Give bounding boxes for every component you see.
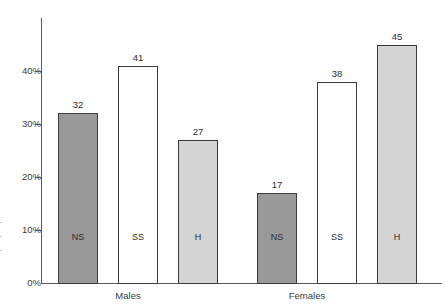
y-tick-mark bbox=[35, 124, 41, 125]
bar-value-label: 17 bbox=[257, 179, 297, 190]
group-label-females: Females bbox=[257, 290, 357, 301]
bar-value-label: 27 bbox=[178, 126, 218, 137]
bar-value-label: 32 bbox=[58, 99, 98, 110]
bar-inner-label: H bbox=[178, 232, 218, 242]
y-tick-0pct: 0% bbox=[0, 278, 41, 288]
bar-inner-label: SS bbox=[118, 232, 158, 242]
bar-value-label: 41 bbox=[118, 52, 158, 63]
y-tick-mark bbox=[35, 71, 41, 72]
scan-artifact bbox=[0, 250, 2, 251]
scan-artifact bbox=[0, 222, 2, 223]
bar-inner-label: SS bbox=[317, 232, 357, 242]
y-tick-label: 0% bbox=[7, 278, 41, 288]
bar-males-ns[interactable] bbox=[58, 113, 98, 284]
y-tick-mark bbox=[35, 177, 41, 178]
bar-inner-label: NS bbox=[58, 232, 98, 242]
bar-chart: 0%10%20%30%40% 32NS41SS27H17NS38SS45H Ma… bbox=[0, 0, 445, 308]
bar-value-label: 45 bbox=[377, 31, 417, 42]
bar-value-label: 38 bbox=[317, 68, 357, 79]
bar-females-h[interactable] bbox=[377, 45, 417, 285]
bar-males-ss[interactable] bbox=[118, 66, 158, 284]
y-tick-mark bbox=[35, 230, 41, 231]
bar-inner-label: H bbox=[377, 232, 417, 242]
group-label-males: Males bbox=[78, 290, 178, 301]
bar-males-h[interactable] bbox=[178, 140, 218, 284]
bar-inner-label: NS bbox=[257, 232, 297, 242]
scan-artifact bbox=[0, 236, 2, 237]
bar-females-ss[interactable] bbox=[317, 82, 357, 284]
y-axis-line bbox=[41, 18, 42, 284]
